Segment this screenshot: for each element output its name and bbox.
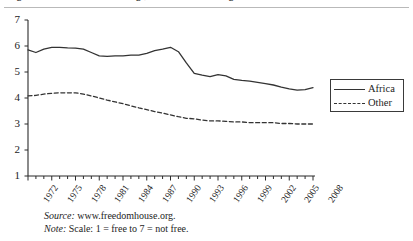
line-chart-plot xyxy=(0,0,413,241)
legend-item-other: Other xyxy=(331,96,403,111)
series-line-africa xyxy=(28,47,313,90)
series-line-other xyxy=(28,93,313,124)
caption-note-value: Scale: 1 = free to 7 = not free. xyxy=(69,223,189,234)
caption-note-key: Note: xyxy=(44,223,66,234)
caption-source-value: www.freedomhouse.org. xyxy=(77,210,175,221)
legend-swatch-dotted-line xyxy=(334,103,365,104)
legend-item-africa: Africa xyxy=(331,82,403,97)
figure-caption: Source: www.freedomhouse.org. Note: Scal… xyxy=(44,210,374,235)
legend-swatch-solid-line xyxy=(334,89,365,90)
y-tick-label-1: 1 xyxy=(4,170,20,181)
y-tick-label-5: 5 xyxy=(4,66,20,77)
y-tick-label-4: 4 xyxy=(4,92,20,103)
figure-container: Figure 1. Freedom House ratings, Africa … xyxy=(0,0,413,241)
caption-source-line: Source: www.freedomhouse.org. xyxy=(44,210,374,223)
legend-label-africa: Africa xyxy=(368,83,395,95)
legend-label-other: Other xyxy=(368,97,392,109)
caption-note-line: Note: Scale: 1 = free to 7 = not free. xyxy=(44,223,374,236)
chart-legend: Africa Other xyxy=(330,79,404,112)
y-tick-label-2: 2 xyxy=(4,144,20,155)
y-tick-label-6: 6 xyxy=(4,40,20,51)
y-tick-label-7: 7 xyxy=(4,14,20,25)
caption-source-key: Source: xyxy=(44,210,75,221)
y-tick-label-3: 3 xyxy=(4,118,20,129)
